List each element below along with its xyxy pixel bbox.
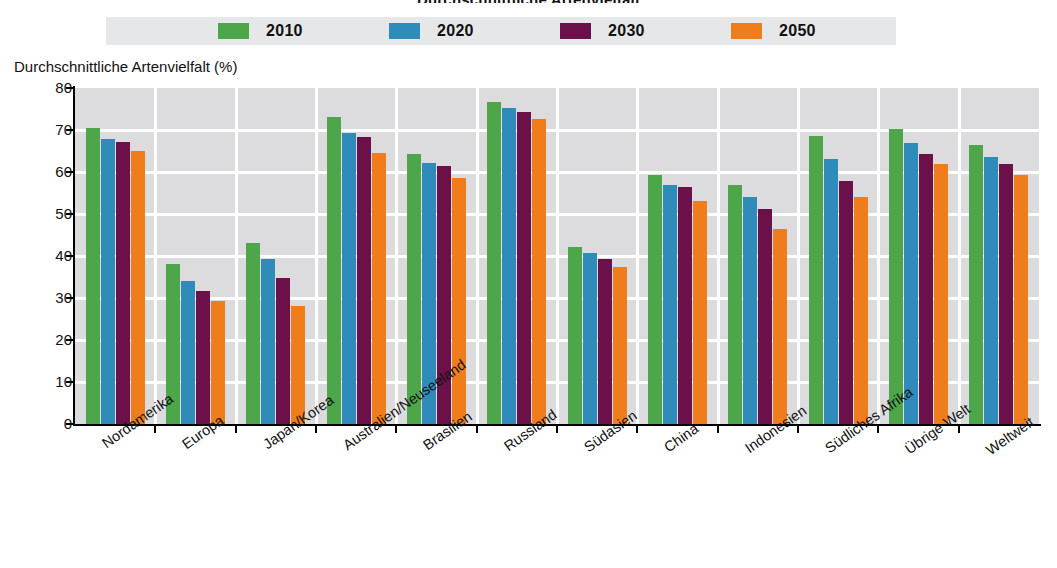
y-axis-ticks: 01020304050607080 [18,88,72,424]
bar-2010-10 [889,129,903,424]
bar-2050-2 [291,306,305,424]
plot-area [75,88,1039,424]
bar-2010-0 [86,128,100,424]
bar-2020-0 [101,139,115,424]
bar-group-5 [477,88,557,424]
bar-2050-11 [1014,175,1028,424]
bar-2030-7 [678,187,692,424]
bar-groups [75,88,1039,424]
x-axis-labels: NordamerikaEuropaJapan/KoreaAustralien/N… [0,424,1057,568]
bar-group-9 [798,88,878,424]
bar-group-8 [718,88,798,424]
bar-group-0 [75,88,155,424]
bar-2020-3 [342,133,356,424]
bar-2030-0 [116,142,130,424]
bar-2030-2 [276,278,290,424]
legend-label-2030: 2030 [608,22,645,40]
bar-2050-10 [934,164,948,424]
bar-2050-8 [773,229,787,424]
legend-swatch-2030 [560,23,591,39]
bar-2050-4 [452,178,466,424]
legend-swatch-2050 [731,23,762,39]
legend-label-2020: 2020 [437,22,474,40]
bar-group-10 [878,88,958,424]
bar-2030-6 [598,259,612,424]
bar-2050-0 [131,151,145,424]
legend-label-2010: 2010 [266,22,303,40]
legend-item-2010: 2010 [218,22,383,40]
bar-2020-5 [502,108,516,424]
bar-2020-7 [663,185,677,424]
chart-title: Durchschnittliche Artenvielfalt [0,0,1057,3]
bar-2050-5 [532,119,546,424]
bar-2020-8 [743,197,757,424]
bar-2030-11 [999,164,1013,424]
bar-2030-9 [839,181,853,424]
bar-group-1 [155,88,235,424]
legend-item-2030: 2030 [560,22,725,40]
legend-label-2050: 2050 [779,22,816,40]
bar-2020-11 [984,157,998,424]
bar-2050-1 [211,301,225,424]
bar-group-2 [236,88,316,424]
bar-2010-2 [246,243,260,424]
bar-2010-11 [969,145,983,424]
bar-2010-6 [568,247,582,424]
bar-2050-3 [372,153,386,424]
chart-legend: 2010202020302050 [106,17,896,45]
bar-2020-6 [583,253,597,424]
bar-2030-5 [517,112,531,424]
bar-group-3 [316,88,396,424]
chart-root: Durchschnittliche Artenvielfalt 20102020… [0,0,1057,568]
bar-2010-5 [487,102,501,424]
bar-2010-3 [327,117,341,424]
bar-2030-1 [196,291,210,424]
bar-2020-1 [181,281,195,424]
bar-2050-9 [854,197,868,424]
y-axis-title: Durchschnittliche Artenvielfalt (%) [14,58,237,75]
bar-group-11 [959,88,1039,424]
x-label-china: China [661,420,701,455]
legend-item-2050: 2050 [731,22,896,40]
bar-2030-3 [357,137,371,424]
legend-swatch-2020 [389,23,420,39]
bar-2020-10 [904,143,918,424]
bar-2010-8 [728,185,742,424]
bar-2050-6 [613,267,627,424]
bar-2030-8 [758,209,772,424]
bar-group-6 [557,88,637,424]
bar-2010-7 [648,175,662,424]
bar-2020-2 [261,259,275,424]
legend-swatch-2010 [218,23,249,39]
bar-group-7 [637,88,717,424]
bar-2050-7 [693,201,707,424]
bar-2020-9 [824,159,838,424]
legend-item-2020: 2020 [389,22,554,40]
bar-2010-9 [809,136,823,424]
bar-2030-10 [919,154,933,424]
